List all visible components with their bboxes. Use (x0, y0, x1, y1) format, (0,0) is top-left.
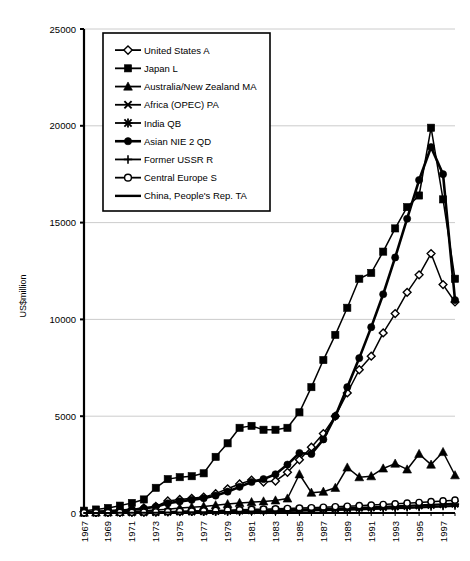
data-point-square-filled (368, 269, 375, 276)
legend-item-label: Africa (OPEC) PA (144, 99, 219, 110)
data-point-circle-filled (308, 450, 315, 457)
data-point-circle-filled (320, 436, 327, 443)
data-point-circle-open (404, 500, 410, 506)
x-axis-tick-label: 1997 (438, 521, 449, 542)
legend-item-label: China, People's Rep. TA (144, 190, 248, 201)
data-point-circle-filled (236, 483, 243, 490)
data-point-square-filled (392, 225, 399, 232)
data-point-square-filled (284, 424, 291, 431)
x-axis-tick-label: 1967 (79, 521, 90, 542)
chart-legend: United States AJapan LAustralia/New Zeal… (103, 33, 270, 211)
x-axis-tick-label: 1975 (174, 521, 185, 542)
data-point-circle-filled (284, 461, 291, 468)
legend-item-4[interactable]: India QB (115, 118, 181, 129)
data-point-square-filled (344, 304, 351, 311)
data-point-circle-filled (296, 449, 303, 456)
data-point-circle-filled (164, 500, 171, 507)
data-point-circle-open (380, 501, 386, 507)
y-axis-tick-label: 25000 (50, 24, 76, 35)
data-point-square-filled (272, 426, 279, 433)
legend-swatch-star-icon (124, 119, 133, 128)
data-point-circle-filled (415, 176, 422, 183)
legend-swatch-square-filled-icon (124, 65, 131, 72)
legend-item-3[interactable]: Africa (OPEC) PA (115, 99, 219, 110)
data-point-circle-open (177, 508, 183, 514)
data-point-circle-open (356, 503, 362, 509)
data-point-square-filled (248, 422, 255, 429)
legend-item-label: Former USSR R (144, 154, 213, 165)
data-point-circle-filled (427, 143, 434, 150)
data-point-square-filled (236, 424, 243, 431)
x-axis-tick-label: 1969 (102, 521, 113, 542)
legend-item-label: Australia/New Zealand MA (144, 81, 257, 92)
y-axis-tick-label: 15000 (50, 217, 76, 228)
x-axis-tick-label: 1987 (318, 521, 329, 542)
data-point-circle-filled (368, 324, 375, 331)
data-point-square-filled (320, 356, 327, 363)
y-axis-tick-label: 10000 (50, 314, 76, 325)
data-point-circle-filled (332, 413, 339, 420)
data-point-circle-filled (248, 478, 255, 485)
data-point-square-filled (164, 476, 171, 483)
data-point-square-filled (308, 384, 315, 391)
data-point-square-filled (260, 426, 267, 433)
data-point-circle-filled (176, 498, 183, 505)
data-point-circle-open (428, 499, 434, 505)
data-point-circle-open (332, 504, 338, 510)
data-point-circle-open (452, 497, 458, 503)
x-axis-tick-label: 1989 (342, 521, 353, 542)
data-point-square-filled (224, 440, 231, 447)
data-point-circle-filled (224, 488, 231, 495)
data-point-square-filled (332, 331, 339, 338)
data-point-square-filled (140, 496, 147, 503)
legend-item-0[interactable]: United States A (115, 45, 210, 56)
data-point-circle-filled (212, 492, 219, 499)
data-point-circle-open (344, 503, 350, 509)
x-axis-tick-label: 1983 (270, 521, 281, 542)
data-point-circle-filled (439, 171, 446, 178)
data-point-circle-open (416, 499, 422, 505)
data-point-circle-filled (451, 296, 458, 303)
data-point-square-filled (176, 474, 183, 481)
data-point-square-filled (152, 484, 159, 491)
data-point-circle-filled (200, 495, 207, 502)
data-point-square-filled (200, 470, 207, 477)
y-axis-tick-label: 5000 (55, 411, 76, 422)
y-axis-title: US$million (18, 274, 28, 317)
data-point-circle-filled (404, 215, 411, 222)
legend-swatch-circle-open-icon (125, 174, 132, 181)
x-axis-tick-label: 1993 (390, 521, 401, 542)
x-axis-tick-label: 1991 (366, 521, 377, 542)
data-point-circle-open (368, 502, 374, 508)
legend-swatch-circle-filled-icon (124, 138, 131, 145)
data-point-square-filled (427, 124, 434, 131)
legend-item-1[interactable]: Japan L (115, 63, 178, 74)
data-point-circle-filled (272, 471, 279, 478)
data-point-circle-filled (260, 476, 267, 483)
y-axis-tick-label: 20000 (50, 120, 76, 131)
data-point-circle-filled (356, 355, 363, 362)
x-axis-tick-label: 1977 (198, 521, 209, 542)
y-axis-tick-label: 0 (71, 508, 76, 519)
data-point-circle-filled (392, 254, 399, 261)
legend-item-label: Central Europe S (144, 172, 217, 183)
line-chart: 0500010000150002000025000 19671969197119… (0, 0, 470, 561)
data-point-circle-filled (380, 291, 387, 298)
x-axis-tick-label: 1985 (294, 521, 305, 542)
legend-item-label: Japan L (144, 63, 178, 74)
data-point-square-filled (415, 192, 422, 199)
data-point-square-filled (296, 409, 303, 416)
x-axis-tick-label: 1971 (126, 521, 137, 542)
legend-item-label: United States A (144, 45, 210, 56)
data-point-square-filled (380, 248, 387, 255)
data-point-circle-filled (188, 496, 195, 503)
x-axis-tick-label: 1973 (150, 521, 161, 542)
data-point-square-filled (188, 473, 195, 480)
legend-item-label: India QB (144, 118, 181, 129)
data-point-circle-open (440, 498, 446, 504)
x-axis-tick-label: 1981 (246, 521, 257, 542)
x-axis-tick-label: 1995 (414, 521, 425, 542)
chart-container: 0500010000150002000025000 19671969197119… (0, 0, 470, 561)
legend-item-label: Asian NIE 2 QD (144, 136, 211, 147)
data-point-square-filled (128, 499, 135, 506)
